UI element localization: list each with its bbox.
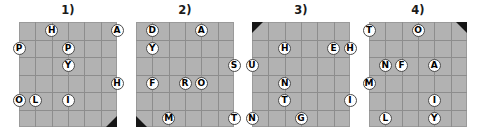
letter-token[interactable]: A [111, 24, 124, 37]
corner-marker-bottom-right [106, 116, 117, 127]
letter-token[interactable]: G [295, 112, 308, 125]
letter-token[interactable]: A [195, 24, 208, 37]
letter-token[interactable]: O [13, 94, 26, 107]
letter-token[interactable]: D [146, 24, 159, 37]
letter-token[interactable]: F [146, 77, 159, 90]
grid-line-horizontal [252, 92, 350, 93]
grid-line-horizontal [19, 110, 117, 111]
puzzle-board: 1)HAPPYHOLI2)DAYSFROMT3)HEHUNTING4)TONFA… [0, 0, 484, 132]
grid-line-horizontal [19, 92, 117, 93]
letter-token[interactable]: H [344, 42, 357, 55]
letter-token[interactable]: N [379, 59, 392, 72]
puzzle-title: 4) [366, 0, 470, 20]
grid-line-horizontal [19, 75, 117, 76]
letter-token[interactable]: I [62, 94, 75, 107]
grid-line-horizontal [136, 75, 234, 76]
puzzle-3: 3)HEHUNTING [249, 0, 353, 132]
letter-token[interactable]: L [29, 94, 42, 107]
letter-token[interactable]: R [179, 77, 192, 90]
letter-token[interactable]: I [344, 94, 357, 107]
grid-line-horizontal [369, 40, 467, 41]
grid-line-horizontal [369, 110, 467, 111]
letter-token[interactable]: T [363, 24, 376, 37]
grid-line-horizontal [252, 57, 350, 58]
letter-token[interactable]: H [111, 77, 124, 90]
grid-line-horizontal [369, 57, 467, 58]
grid-line-horizontal [136, 57, 234, 58]
letter-token[interactable]: I [428, 94, 441, 107]
grid-line-horizontal [369, 92, 467, 93]
letter-token[interactable]: A [428, 59, 441, 72]
puzzle-2: 2)DAYSFROMT [133, 0, 237, 132]
letter-token[interactable]: T [228, 112, 241, 125]
letter-token[interactable]: O [195, 77, 208, 90]
puzzle-title: 3) [249, 0, 353, 20]
grid-line-horizontal [252, 75, 350, 76]
letter-token[interactable]: L [379, 112, 392, 125]
letter-token[interactable]: H [278, 42, 291, 55]
letter-grid[interactable]: HAPPYHOLI [19, 22, 117, 127]
grid-line-horizontal [136, 92, 234, 93]
letter-grid[interactable]: HEHUNTING [252, 22, 350, 127]
letter-token[interactable]: P [13, 42, 26, 55]
puzzle-4: 4)TONFAMILY [366, 0, 470, 132]
letter-token[interactable]: M [162, 112, 175, 125]
grid-line-horizontal [369, 75, 467, 76]
grid-line-horizontal [252, 110, 350, 111]
grid-line-horizontal [19, 40, 117, 41]
letter-token[interactable]: M [363, 77, 376, 90]
corner-marker-bottom-left [136, 116, 147, 127]
puzzle-title: 1) [16, 0, 120, 20]
letter-grid[interactable]: DAYSFROMT [136, 22, 234, 127]
puzzle-title: 2) [133, 0, 237, 20]
grid-line-horizontal [136, 110, 234, 111]
letter-token[interactable]: Y [428, 112, 441, 125]
letter-token[interactable]: Y [146, 42, 159, 55]
letter-token[interactable]: U [246, 59, 259, 72]
corner-marker-top-right [456, 22, 467, 33]
puzzle-1: 1)HAPPYHOLI [16, 0, 120, 132]
corner-marker-top-left [252, 22, 263, 33]
letter-token[interactable]: N [278, 77, 291, 90]
grid-line-horizontal [252, 40, 350, 41]
grid-line-horizontal [19, 57, 117, 58]
letter-token[interactable]: N [246, 112, 259, 125]
letter-token[interactable]: P [62, 42, 75, 55]
letter-token[interactable]: Y [62, 59, 75, 72]
letter-token[interactable]: O [412, 24, 425, 37]
letter-token[interactable]: E [327, 42, 340, 55]
letter-grid[interactable]: TONFAMILY [369, 22, 467, 127]
grid-line-horizontal [136, 40, 234, 41]
letter-token[interactable]: S [228, 59, 241, 72]
